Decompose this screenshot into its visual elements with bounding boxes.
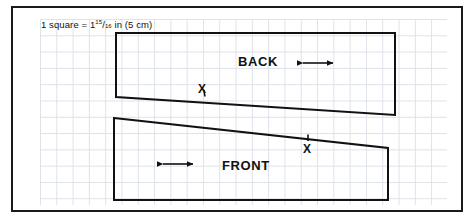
pattern-piece-label-front: FRONT: [222, 158, 270, 173]
pattern-piece-back-outline: [116, 33, 395, 115]
notch-marker-front: X: [303, 142, 311, 156]
pattern-piece-label-back: BACK: [238, 54, 278, 69]
pattern-shapes-layer: [0, 0, 476, 220]
pattern-layout-figure: 1 square = 115/16 in (5 cm) BACK FR: [0, 0, 476, 220]
notch-marker-back: X: [198, 82, 206, 96]
